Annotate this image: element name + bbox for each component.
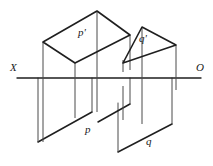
label-p-prime: p' xyxy=(78,27,86,38)
label-p: p xyxy=(85,124,91,135)
q-recess-step xyxy=(98,104,130,122)
lower-right-plane-q xyxy=(98,78,172,152)
figure-canvas xyxy=(0,0,213,166)
projection-figure: X O p' q' p q xyxy=(0,0,213,166)
label-q-prime: q' xyxy=(139,33,147,44)
q-edge-bottom xyxy=(118,124,172,152)
p-edge-bottom xyxy=(38,112,92,142)
axis-label-x: X xyxy=(10,62,17,73)
q-prime-outline xyxy=(123,27,176,63)
lower-left-plane-p xyxy=(38,78,92,142)
axis-label-o: O xyxy=(196,62,204,73)
label-q: q xyxy=(146,136,152,147)
upper-right-plane-q-prime xyxy=(123,27,176,63)
p-prime-outline xyxy=(43,11,130,63)
upper-left-plane-p-prime xyxy=(43,11,130,63)
